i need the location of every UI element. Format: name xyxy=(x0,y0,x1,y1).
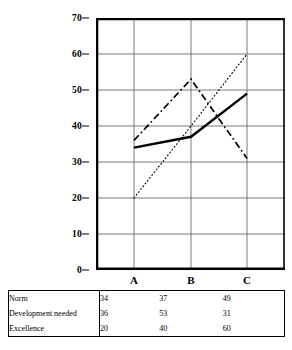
y-tick-mark-20 xyxy=(82,198,89,199)
table-row-label-development-needed: Development needed xyxy=(9,306,99,321)
plot-svg xyxy=(96,18,285,270)
x-tick-label-b: B xyxy=(187,274,194,286)
x-tick-label-a: A xyxy=(130,274,138,286)
y-tick-mark-70 xyxy=(82,18,89,19)
y-tick-mark-60 xyxy=(82,54,89,55)
y-tick-mark-0 xyxy=(82,270,89,271)
horizontal-gridlines xyxy=(96,54,285,234)
table-row: Norm 34 37 49 xyxy=(9,291,284,306)
table-cell-excellence-c: 60 xyxy=(223,321,284,336)
table-row-label-norm: Norm xyxy=(9,291,99,306)
y-tick-label-70: 70 xyxy=(72,13,82,23)
line-chart-figure: 70 60 50 40 30 20 10 0 xyxy=(0,0,292,350)
table-cell-norm-c: 49 xyxy=(223,291,284,306)
y-tick-label-50: 50 xyxy=(72,85,82,95)
table-cell-excellence-a: 20 xyxy=(99,321,159,336)
table-cell-norm-a: 34 xyxy=(99,291,159,306)
table-cell-excellence-b: 40 xyxy=(159,321,222,336)
y-axis: 70 60 50 40 30 20 10 0 xyxy=(0,0,96,290)
table-cell-development-needed-b: 53 xyxy=(159,306,222,321)
table-cell-norm-b: 37 xyxy=(159,291,222,306)
table-cell-development-needed-a: 36 xyxy=(99,306,159,321)
data-table: Norm 34 37 49 Development needed 36 53 3… xyxy=(8,290,285,337)
series-line-norm xyxy=(134,94,247,148)
series-line-development-needed xyxy=(134,79,247,158)
plot-frame xyxy=(96,18,285,270)
y-tick-mark-40 xyxy=(82,126,89,127)
table-row: Excellence 20 40 60 xyxy=(9,321,284,336)
y-tick-mark-50 xyxy=(82,90,89,91)
y-tick-label-40: 40 xyxy=(72,121,82,131)
y-tick-label-30: 30 xyxy=(72,157,82,167)
y-tick-label-20: 20 xyxy=(72,193,82,203)
y-tick-mark-10 xyxy=(82,234,89,235)
table-row-label-excellence: Excellence xyxy=(9,321,99,336)
x-tick-label-c: C xyxy=(243,274,251,286)
plot-axes xyxy=(96,18,285,270)
y-tick-label-60: 60 xyxy=(72,49,82,59)
y-tick-label-10: 10 xyxy=(72,229,82,239)
x-axis: A B C xyxy=(0,272,292,290)
plot-area xyxy=(96,18,285,270)
table-cell-development-needed-c: 31 xyxy=(223,306,284,321)
table-row: Development needed 36 53 31 xyxy=(9,306,284,321)
y-tick-mark-30 xyxy=(82,162,89,163)
